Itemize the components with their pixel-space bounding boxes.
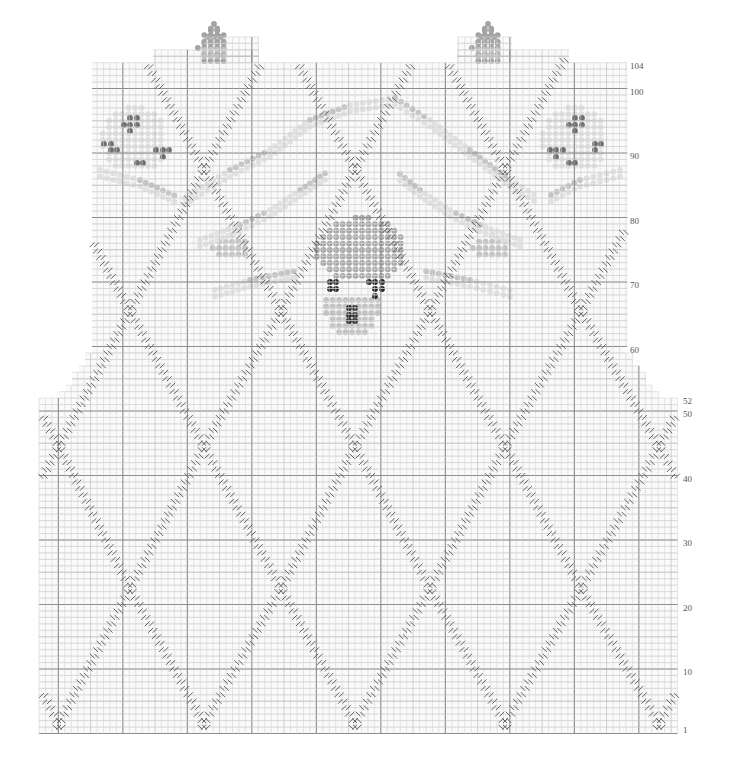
row-label-100: 100 — [630, 87, 644, 97]
row-label-50: 50 — [683, 409, 692, 419]
row-label-60: 60 — [630, 345, 639, 355]
row-label-1: 1 — [683, 725, 688, 735]
row-label-90: 90 — [630, 151, 639, 161]
row-label-10: 10 — [683, 667, 692, 677]
knitting-chart — [0, 0, 731, 779]
row-label-40: 40 — [683, 474, 692, 484]
row-label-30: 30 — [683, 538, 692, 548]
row-label-70: 70 — [630, 280, 639, 290]
row-label-80: 80 — [630, 216, 639, 226]
row-label-52: 52 — [683, 396, 692, 406]
row-label-20: 20 — [683, 603, 692, 613]
row-label-104: 104 — [630, 61, 644, 71]
